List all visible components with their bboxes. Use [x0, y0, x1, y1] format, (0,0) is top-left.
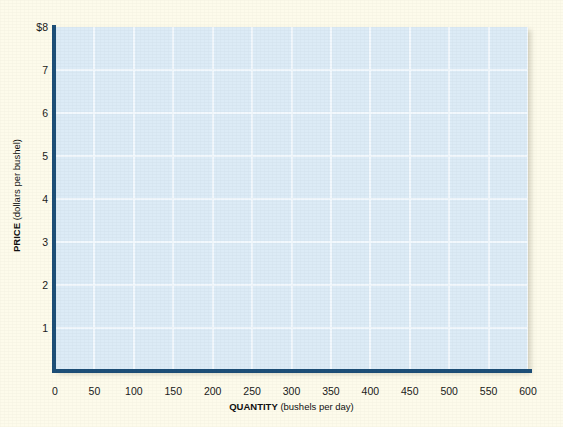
y-axis-title: PRICE (dollars per bushel): [11, 111, 22, 281]
plot-wrapper: [55, 27, 528, 371]
y-axis-title-bold: PRICE: [11, 223, 22, 252]
gridline-horizontal: [55, 241, 528, 243]
y-tick-label: 3: [2, 236, 48, 248]
x-axis-title: QUANTITY (bushels per day): [55, 401, 528, 412]
plot-area: [55, 27, 528, 371]
x-axis-title-bold: QUANTITY: [229, 401, 278, 412]
x-axis-tick-labels: 050100150200250300350400450500550600: [0, 385, 563, 401]
gridline-horizontal: [55, 112, 528, 114]
y-tick-label: $8: [2, 21, 48, 33]
figure-top-caption: [0, 0, 563, 4]
gridline-horizontal: [55, 198, 528, 200]
y-tick-label: 2: [2, 279, 48, 291]
gridline-horizontal: [55, 327, 528, 329]
gridline-horizontal: [55, 284, 528, 286]
y-axis-tick-labels: 1234567$8: [0, 0, 48, 427]
x-axis-line: [52, 369, 532, 373]
gridline-horizontal: [55, 155, 528, 157]
y-axis-line: [52, 25, 56, 373]
y-tick-label: 4: [2, 193, 48, 205]
x-tick-label: 600: [503, 385, 553, 397]
gridline-horizontal: [55, 69, 528, 71]
x-axis-title-rest: (bushels per day): [278, 401, 354, 412]
economics-graph-figure: 1234567$8 050100150200250300350400450500…: [0, 0, 563, 427]
y-tick-label: 5: [2, 150, 48, 162]
y-axis-title-rest: (dollars per bushel): [11, 139, 22, 223]
y-tick-label: 7: [2, 64, 48, 76]
y-tick-label: 1: [2, 322, 48, 334]
y-tick-label: 6: [2, 107, 48, 119]
